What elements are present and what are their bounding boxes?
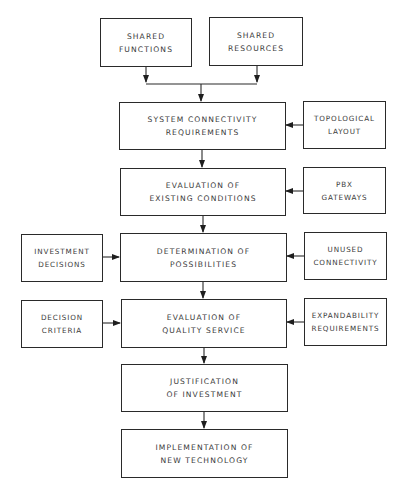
node-label-line2: POSSIBILITIES <box>170 258 237 271</box>
node-investment-decisions: INVESTMENT DECISIONS <box>21 234 103 282</box>
node-justification-of-investment: JUSTIFICATION OF INVESTMENT <box>121 364 288 412</box>
node-label-line1: EXPANDABILITY <box>312 309 380 322</box>
node-label-line1: JUSTIFICATION <box>170 375 239 388</box>
node-label-line1: TOPOLOGICAL <box>314 112 375 125</box>
node-label-line1: IMPLEMENTATION OF <box>155 441 253 454</box>
node-label-line1: DECISION <box>41 311 83 324</box>
node-label-line2: RESOURCES <box>228 42 284 55</box>
node-label-line2: EXISTING CONDITIONS <box>149 192 256 205</box>
flowchart-canvas: SHARED FUNCTIONS SHARED RESOURCES SYSTEM… <box>0 0 405 495</box>
node-decision-criteria: DECISION CRITERIA <box>21 300 103 348</box>
node-evaluation-quality-service: EVALUATION OF QUALITY SERVICE <box>121 299 287 348</box>
node-label-line2: LAYOUT <box>328 125 361 138</box>
node-label-line2: CONNECTIVITY <box>313 256 377 269</box>
node-label-line1: DETERMINATION OF <box>157 245 250 258</box>
node-expandability-requirements: EXPANDABILITY REQUIREMENTS <box>304 298 387 346</box>
node-label-line1: INVESTMENT <box>34 245 89 258</box>
node-label-line2: GATEWAYS <box>321 191 367 204</box>
node-label-line2: OF INVESTMENT <box>166 388 242 401</box>
node-label-line2: NEW TECHNOLOGY <box>161 454 249 467</box>
node-label-line2: QUALITY SERVICE <box>162 324 245 337</box>
node-label-line2: DECISIONS <box>38 258 86 271</box>
node-label-line1: SHARED <box>237 29 275 42</box>
node-implementation-of-new-technology: IMPLEMENTATION OF NEW TECHNOLOGY <box>121 429 288 478</box>
node-label-line1: PBX <box>336 178 353 191</box>
node-label-line1: EVALUATION OF <box>167 311 241 324</box>
node-determination-of-possibilities: DETERMINATION OF POSSIBILITIES <box>120 233 287 282</box>
node-label-line2: CRITERIA <box>42 324 82 337</box>
node-label-line1: UNUSED <box>328 243 364 256</box>
node-topological-layout: TOPOLOGICAL LAYOUT <box>303 101 386 149</box>
node-pbx-gateways: PBX GATEWAYS <box>303 167 386 214</box>
node-shared-resources: SHARED RESOURCES <box>209 17 303 66</box>
node-shared-functions: SHARED FUNCTIONS <box>100 18 192 67</box>
node-label-line1: EVALUATION OF <box>166 179 240 192</box>
node-label-line1: SYSTEM CONNECTIVITY <box>148 113 258 126</box>
node-evaluation-existing-conditions: EVALUATION OF EXISTING CONDITIONS <box>120 168 286 216</box>
node-label-line2: REQUIREMENTS <box>312 322 380 335</box>
node-label-line2: FUNCTIONS <box>119 43 173 56</box>
node-unused-connectivity: UNUSED CONNECTIVITY <box>304 232 387 280</box>
node-label-line2: REQUIREMENTS <box>166 126 240 139</box>
node-label-line1: SHARED <box>127 30 165 43</box>
node-system-connectivity-requirements: SYSTEM CONNECTIVITY REQUIREMENTS <box>119 102 286 150</box>
